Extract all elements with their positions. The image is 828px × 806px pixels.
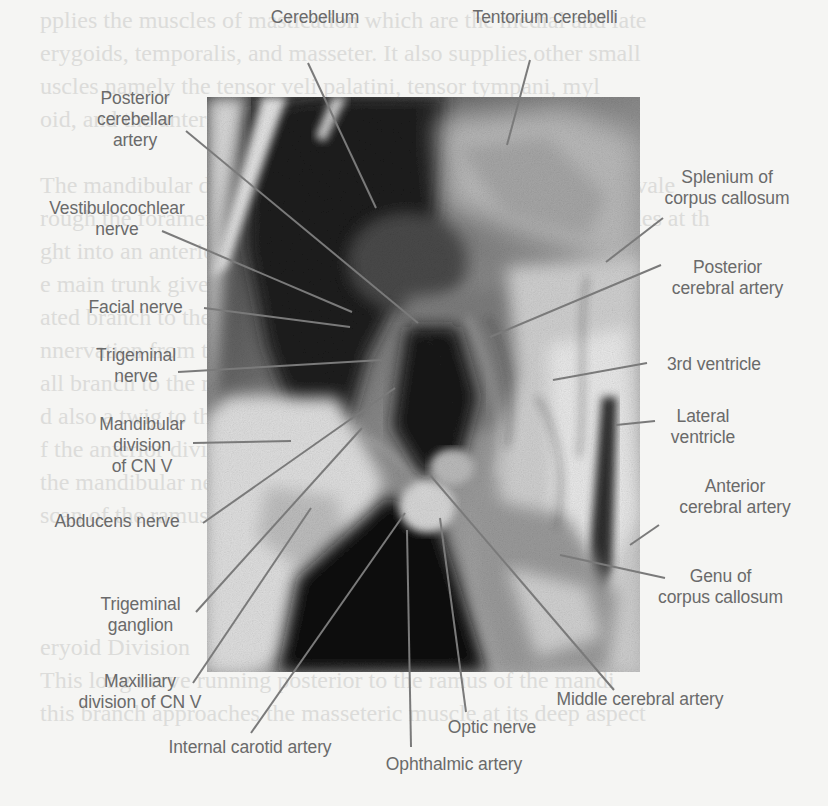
label-cerebellum: Cerebellum [255,7,375,28]
label-posterior-cerebral-artery: Posterior cerebral artery [645,257,810,299]
label-anterior-cerebral-artery: Anterior cerebral artery [660,476,810,518]
label-splenium-corpus-callosum: Splenium of corpus callosum [643,167,811,209]
dissection-photograph [207,97,640,672]
label-ophthalmic-artery: Ophthalmic artery [366,754,542,775]
label-vestibulocochlear-nerve: Vestibulocochlear nerve [28,198,206,240]
label-middle-cerebral-artery: Middle cerebral artery [540,689,740,710]
label-internal-carotid-artery: Internal carotid artery [150,737,350,758]
label-abducens-nerve: Abducens nerve [37,511,197,532]
label-lateral-ventricle: Lateral ventricle [663,406,743,448]
label-maxilliary-division: Maxilliary division of CN V [60,671,220,713]
label-facial-nerve: Facial nerve [73,297,198,318]
label-posterior-cerebellar-artery: Posterior cerebellar artery [80,88,190,151]
label-trigeminal-nerve: Trigeminal nerve [80,345,192,387]
label-third-ventricle: 3rd ventricle [654,354,774,375]
label-optic-nerve: Optic nerve [436,717,548,738]
label-mandibular-division: Mandibular division of CN V [88,414,196,477]
brain-dissection-image [207,97,640,672]
label-tentorium-cerebelli: Tentorium cerebelli [460,7,630,28]
label-genu-corpus-callosum: Genu of corpus callosum [643,566,798,608]
figure-page: pplies the muscles of mastication which … [0,0,828,806]
show-through-text-line: erygoids, temporalis, and masseter. It a… [40,37,641,70]
label-trigeminal-ganglion: Trigeminal ganglion [88,594,193,636]
